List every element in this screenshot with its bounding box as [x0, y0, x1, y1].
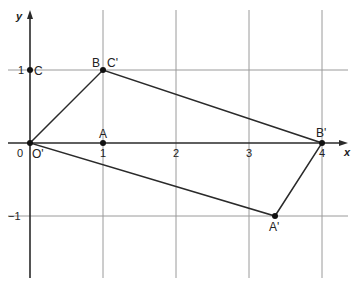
- label-a-prime: A': [269, 220, 279, 234]
- label-o-prime: O': [32, 147, 44, 161]
- coordinate-diagram: A y x 0 O' 1 2 3 4 1 −1 C B C' B' A': [0, 0, 355, 290]
- axes: [8, 14, 340, 278]
- label-b: B: [92, 56, 100, 70]
- x-tick-2: 2: [173, 147, 179, 159]
- point-a-prime: [272, 213, 278, 219]
- x-tick-3: 3: [246, 147, 252, 159]
- label-b-prime: B': [316, 126, 326, 140]
- x-tick-1: 1: [100, 147, 106, 159]
- origin-label: 0: [17, 147, 23, 159]
- point-b-prime: [319, 140, 325, 146]
- y-tick-neg1: −1: [8, 210, 21, 222]
- x-tick-4: 4: [319, 147, 325, 159]
- grid: [8, 10, 348, 278]
- x-axis-label: x: [343, 146, 351, 158]
- label-c-prime: C': [107, 56, 118, 70]
- point-c: [27, 67, 33, 73]
- y-tick-1: 1: [18, 64, 24, 76]
- point-origin: [27, 140, 33, 146]
- y-axis-label: y: [15, 10, 23, 22]
- label-c: C: [34, 64, 43, 78]
- label-a: A: [99, 127, 107, 141]
- point-b: [100, 67, 106, 73]
- y-axis-arrow-icon: [27, 10, 33, 19]
